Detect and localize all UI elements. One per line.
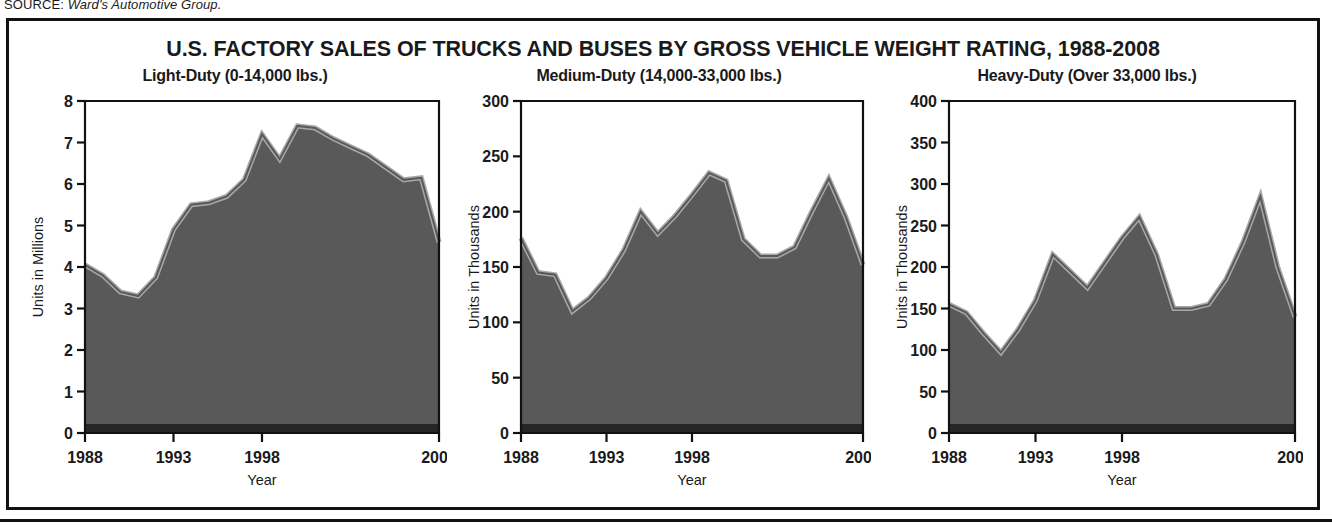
y-tick-label: 50 — [491, 370, 509, 387]
y-tick-label: 8 — [64, 93, 73, 110]
y-tick-label: 2 — [64, 342, 73, 359]
series-base-strip — [949, 424, 1295, 433]
x-axis-label: Year — [1107, 472, 1136, 488]
y-tick-label: 1 — [64, 384, 73, 401]
source-value: Ward's Automotive Group. — [68, 0, 222, 12]
y-tick-label: 300 — [910, 176, 937, 193]
y-tick-label: 0 — [928, 425, 937, 442]
y-tick-label: 250 — [910, 218, 937, 235]
area-series — [85, 126, 439, 433]
y-tick-label: 250 — [482, 148, 509, 165]
figure-container: U.S. FACTORY SALES OF TRUCKS AND BUSES B… — [6, 18, 1320, 510]
x-tick-label: 1988 — [67, 449, 103, 466]
series-base-strip — [85, 424, 439, 433]
panel-title-medium-duty: Medium-Duty (14,000-33,000 lbs.) — [447, 67, 871, 85]
y-tick-label: 200 — [910, 259, 937, 276]
plot-heavy-duty: 0501001502002503003504001988199319982008… — [871, 93, 1303, 497]
panel-heavy-duty: Heavy-Duty (Over 33,000 lbs.) 0501001502… — [871, 67, 1303, 497]
y-tick-label: 7 — [64, 135, 73, 152]
x-tick-label: 1993 — [1018, 449, 1054, 466]
x-tick-label: 1993 — [156, 449, 192, 466]
x-tick-label: 1988 — [931, 449, 967, 466]
y-tick-label: 400 — [910, 93, 937, 110]
panel-title-heavy-duty: Heavy-Duty (Over 33,000 lbs.) — [871, 67, 1303, 85]
x-tick-label: 1998 — [244, 449, 280, 466]
y-tick-label: 350 — [910, 135, 937, 152]
y-tick-label: 100 — [910, 342, 937, 359]
x-axis-label: Year — [247, 472, 276, 488]
plot-light-duty: 0123456781988199319982008YearUnits in Mi… — [23, 93, 447, 497]
y-tick-label: 6 — [64, 176, 73, 193]
chart-svg: 0501001502002503003504001988199319982008… — [871, 93, 1303, 497]
y-axis-label: Units in Thousands — [894, 205, 910, 329]
source-label: SOURCE: — [4, 0, 64, 12]
figure-title: U.S. FACTORY SALES OF TRUCKS AND BUSES B… — [9, 37, 1317, 62]
x-tick-label: 2008 — [421, 449, 447, 466]
bottom-rule — [0, 519, 1332, 522]
y-axis-label: Units in Thousands — [466, 205, 482, 329]
x-tick-label: 1988 — [503, 449, 539, 466]
source-line: SOURCE: Ward's Automotive Group. — [4, 0, 221, 12]
y-tick-label: 150 — [482, 259, 509, 276]
y-tick-label: 100 — [482, 314, 509, 331]
x-axis-label: Year — [677, 472, 706, 488]
x-tick-label: 2008 — [845, 449, 871, 466]
series-base-strip — [521, 424, 863, 433]
panel-light-duty: Light-Duty (0-14,000 lbs.) 0123456781988… — [23, 67, 447, 497]
y-tick-label: 50 — [919, 384, 937, 401]
plot-medium-duty: 0501001502002503001988199319982008YearUn… — [447, 93, 871, 497]
y-tick-label: 3 — [64, 301, 73, 318]
y-tick-label: 150 — [910, 301, 937, 318]
chart-svg: 0501001502002503001988199319982008YearUn… — [447, 93, 871, 497]
y-tick-label: 200 — [482, 204, 509, 221]
area-series — [949, 196, 1295, 433]
y-tick-label: 300 — [482, 93, 509, 110]
x-tick-label: 1993 — [589, 449, 625, 466]
panel-medium-duty: Medium-Duty (14,000-33,000 lbs.) 0501001… — [447, 67, 871, 497]
y-axis-label: Units in Millions — [30, 217, 46, 318]
y-tick-label: 5 — [64, 218, 73, 235]
y-tick-label: 0 — [500, 425, 509, 442]
panels-row: Light-Duty (0-14,000 lbs.) 0123456781988… — [9, 67, 1317, 497]
chart-svg: 0123456781988199319982008YearUnits in Mi… — [23, 93, 447, 497]
x-tick-label: 1998 — [1104, 449, 1140, 466]
panel-title-light-duty: Light-Duty (0-14,000 lbs.) — [23, 67, 447, 85]
y-tick-label: 4 — [64, 259, 73, 276]
x-tick-label: 2008 — [1277, 449, 1303, 466]
x-tick-label: 1998 — [674, 449, 710, 466]
y-tick-label: 0 — [64, 425, 73, 442]
